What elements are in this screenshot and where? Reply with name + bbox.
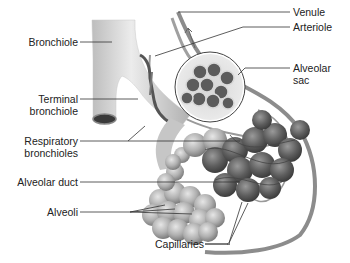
label-text-line2: bronchioles bbox=[0, 147, 78, 159]
label-text: Arteriole bbox=[293, 21, 332, 33]
label-alveoli: Alveoli bbox=[0, 206, 78, 218]
label-text-line1: Terminal bbox=[0, 93, 78, 105]
label-text: Alveoli bbox=[47, 206, 78, 218]
label-venule: Venule bbox=[293, 6, 325, 18]
label-text: Capillaries bbox=[155, 238, 204, 250]
label-capillaries: Capillaries bbox=[120, 238, 204, 250]
label-text-line1: Respiratory bbox=[0, 135, 78, 147]
label-text: Alveolar duct bbox=[17, 176, 78, 188]
label-alveolar-duct: Alveolar duct bbox=[0, 176, 78, 188]
label-text: Bronchiole bbox=[28, 36, 78, 48]
bronchiole-tube bbox=[92, 20, 190, 128]
alveoli-anatomy-diagram: Bronchiole Terminal bronchiole Respirato… bbox=[0, 0, 350, 263]
alveolar-sac-cutaway bbox=[175, 52, 245, 122]
label-terminal-bronchiole: Terminal bronchiole bbox=[0, 93, 78, 117]
label-bronchiole: Bronchiole bbox=[0, 36, 78, 48]
capillary-network bbox=[183, 110, 310, 202]
label-respiratory-bronchioles: Respiratory bronchioles bbox=[0, 135, 78, 159]
label-text-line2: bronchiole bbox=[0, 105, 78, 117]
label-alveolar-sac: Alveolar sac bbox=[293, 62, 331, 86]
label-text: Venule bbox=[293, 6, 325, 18]
label-text-line2: sac bbox=[293, 74, 331, 86]
label-arteriole: Arteriole bbox=[293, 21, 332, 33]
label-text-line1: Alveolar bbox=[293, 62, 331, 74]
